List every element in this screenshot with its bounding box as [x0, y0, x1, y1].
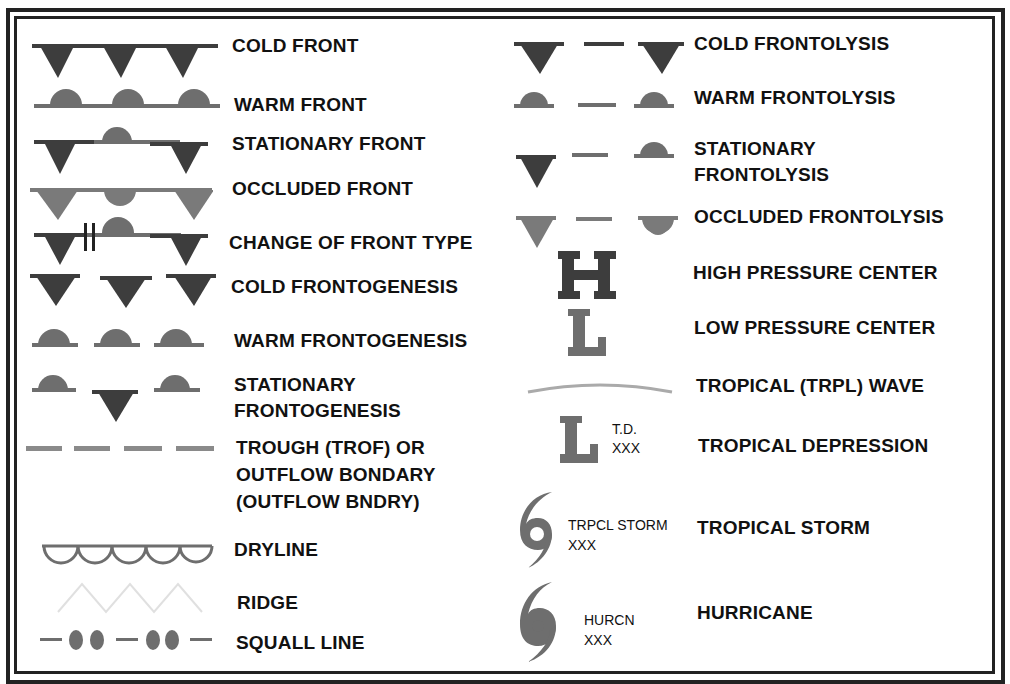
warm-front-icon	[32, 86, 222, 110]
occluded-front-label: OCCLUDED FRONT	[232, 176, 413, 202]
ridge-label: RIDGE	[237, 590, 298, 616]
trough-icon	[24, 444, 216, 454]
warm-frontolysis-icon	[512, 86, 686, 110]
stationary-front-icon	[32, 124, 212, 176]
hurricane-icon	[516, 580, 560, 664]
occluded-frontolysis-label: OCCLUDED FRONTOLYSIS	[694, 204, 944, 230]
cold-frontogenesis-icon	[28, 272, 218, 312]
tropical-depression-annotation-2: XXX	[612, 440, 640, 457]
tropical-storm-label: TROPICAL STORM	[697, 515, 870, 541]
stationary-frontolysis-label-1: STATIONARY	[694, 136, 816, 162]
trough-label-3: (OUTFLOW BNDRY)	[236, 489, 420, 515]
occluded-frontolysis-icon	[512, 214, 686, 254]
hurricane-label: HURRICANE	[697, 600, 813, 626]
tropical-storm-annotation-1: TRPCL STORM	[568, 517, 668, 534]
squall-line-icon	[38, 628, 214, 652]
stationary-frontolysis-icon	[512, 138, 686, 192]
cold-frontogenesis-label: COLD FRONTOGENESIS	[231, 274, 458, 300]
tropical-depression-annotation-1: T.D.	[612, 421, 637, 438]
stationary-front-label: STATIONARY FRONT	[232, 131, 426, 157]
change-of-front-type-icon	[32, 214, 212, 266]
hurricane-annotation-2: XXX	[584, 632, 612, 649]
low-pressure-center-label: LOW PRESSURE CENTER	[694, 315, 935, 341]
warm-front-label: WARM FRONT	[234, 92, 367, 118]
cold-frontolysis-icon	[512, 40, 686, 76]
tropical-depression-l-icon	[560, 416, 600, 464]
tropical-depression-label: TROPICAL DEPRESSION	[698, 433, 928, 459]
tropical-storm-icon	[516, 488, 558, 572]
dryline-label: DRYLINE	[234, 537, 318, 563]
tropical-wave-icon	[526, 380, 674, 398]
squall-line-label: SQUALL LINE	[236, 630, 365, 656]
dryline-icon	[40, 542, 216, 572]
cold-front-label: COLD FRONT	[232, 33, 359, 59]
change-of-front-type-label: CHANGE OF FRONT TYPE	[229, 230, 473, 256]
ridge-icon	[56, 580, 206, 616]
tropical-storm-annotation-2: XXX	[568, 537, 596, 554]
warm-frontolysis-label: WARM FRONTOLYSIS	[694, 85, 896, 111]
stationary-frontogenesis-label-1: STATIONARY	[234, 372, 356, 398]
warm-frontogenesis-icon	[30, 325, 210, 349]
cold-front-icon	[30, 40, 220, 82]
high-pressure-h-icon	[558, 251, 618, 301]
high-pressure-center-label: HIGH PRESSURE CENTER	[693, 260, 938, 286]
stationary-frontogenesis-label-2: FRONTOGENESIS	[234, 398, 401, 424]
low-pressure-l-icon	[568, 309, 608, 357]
stationary-frontolysis-label-2: FRONTOLYSIS	[694, 162, 829, 188]
trough-label-2: OUTFLOW BONDARY	[236, 462, 436, 488]
hurricane-annotation-1: HURCN	[584, 612, 635, 629]
tropical-wave-label: TROPICAL (TRPL) WAVE	[696, 373, 924, 399]
trough-label-1: TROUGH (TROF) OR	[236, 435, 425, 461]
stationary-frontogenesis-icon	[30, 370, 210, 426]
warm-frontogenesis-label: WARM FRONTOGENESIS	[234, 328, 467, 354]
cold-frontolysis-label: COLD FRONTOLYSIS	[694, 31, 889, 57]
